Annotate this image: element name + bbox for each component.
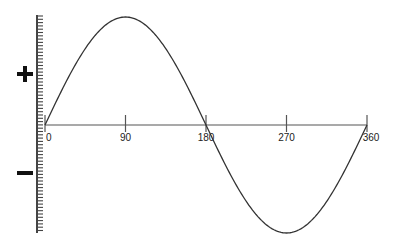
plus-sign-icon-vertical	[23, 66, 27, 82]
sine-chart: 090180270360	[0, 0, 394, 247]
x-tick-label: 0	[46, 132, 52, 143]
x-tick-label: 270	[278, 132, 295, 143]
x-tick-label: 90	[120, 132, 132, 143]
y-axis-ruler	[37, 15, 43, 233]
x-tick-label: 360	[363, 132, 380, 143]
minus-sign-icon	[17, 171, 33, 175]
y-axis-sign-markers	[17, 66, 33, 175]
